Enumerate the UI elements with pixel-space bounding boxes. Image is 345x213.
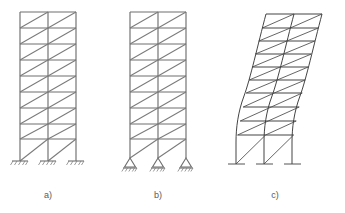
brace-bay1-story8 [259, 28, 291, 41]
brace-bay2-story4 [48, 92, 76, 108]
pinned-support-left [122, 158, 137, 172]
brace-bay1-story7 [20, 44, 48, 60]
column-right-deformed [292, 14, 322, 164]
brace-bay2-story9 [48, 12, 76, 28]
hatch [71, 161, 74, 165]
brace-bay2-story5 [158, 76, 186, 92]
brace-bay1-story1 [130, 139, 158, 158]
brace-bay1-story1 [20, 139, 48, 161]
hatch [11, 161, 14, 165]
brace-bay1-story6 [20, 60, 48, 76]
brace-bay1-story6 [252, 54, 283, 67]
brace-bay1-story3 [243, 93, 274, 107]
brace-bay1-story6 [130, 60, 158, 76]
brace-bay2-story2 [158, 124, 186, 139]
panel-a-frame: a) [11, 12, 85, 200]
brace-bay1-story9 [130, 12, 158, 28]
brace-bay1-story7 [130, 44, 158, 60]
panel-b-frame: b) [122, 12, 193, 200]
hatch [54, 161, 57, 165]
column-middle-deformed [264, 14, 294, 164]
support-triangle [125, 158, 136, 167]
brace-bay2-story3 [48, 108, 76, 124]
brace-bay2-story7 [283, 41, 314, 54]
hatch [39, 161, 42, 165]
brace-bay1-story8 [130, 28, 158, 44]
brace-bay2-story1 [158, 139, 186, 158]
brace-bay1-story3 [130, 108, 158, 124]
brace-bay2-story7 [158, 44, 186, 60]
column-left-deformed [236, 14, 266, 164]
brace-bay2-story5 [48, 76, 76, 92]
hatch [15, 161, 18, 165]
panel-b-columns [130, 12, 186, 158]
structural-frames-figure: a) [0, 0, 345, 213]
panel-c-columns [236, 14, 322, 164]
brace-bay2-story3 [271, 93, 302, 107]
support-triangle [153, 158, 164, 167]
pinned-support-right [178, 158, 193, 172]
brace-bay1-story4 [20, 92, 48, 108]
hatch [150, 168, 152, 172]
panel-c-braces [236, 14, 322, 164]
brace-bay2-story5 [277, 67, 308, 80]
brace-bay1-story3 [20, 108, 48, 124]
panel-c-caption: c) [271, 190, 279, 200]
brace-bay2-story2 [48, 124, 76, 139]
brace-bay1-story5 [20, 76, 48, 92]
brace-bay1-story9 [262, 14, 294, 28]
hatch [51, 161, 54, 165]
brace-bay2-story6 [158, 60, 186, 76]
hatch [47, 161, 50, 165]
panel-b-supports [122, 158, 193, 172]
brace-bay1-story4 [246, 80, 277, 93]
hatch [79, 161, 82, 165]
brace-bay1-story2 [20, 124, 48, 139]
pinned-support-middle [150, 158, 165, 172]
brace-bay1-story5 [249, 67, 280, 80]
fixed-support-left [11, 161, 29, 165]
brace-bay2-story9 [290, 14, 322, 28]
hatch [67, 161, 70, 165]
brace-bay2-story8 [158, 28, 186, 44]
brace-bay2-story1 [48, 139, 76, 161]
panel-c-frame: c) [228, 14, 322, 200]
brace-bay2-story6 [48, 60, 76, 76]
brace-bay1-story4 [130, 92, 158, 108]
brace-bay2-story3 [158, 108, 186, 124]
hatch [26, 161, 29, 165]
panel-a-caption: a) [44, 190, 52, 200]
brace-bay2-story8 [48, 28, 76, 44]
support-triangle [181, 158, 192, 167]
brace-bay2-story4 [274, 80, 305, 93]
brace-bay1-story7 [255, 41, 286, 54]
hatch [75, 161, 78, 165]
brace-bay2-story4 [158, 92, 186, 108]
hatch [23, 161, 26, 165]
brace-bay2-story9 [158, 12, 186, 28]
hatch [178, 168, 180, 172]
brace-bay2-story2 [266, 121, 297, 135]
brace-bay1-story1 [236, 135, 266, 164]
brace-bay1-story9 [20, 12, 48, 28]
fixed-support-right [67, 161, 85, 165]
hatch [43, 161, 46, 165]
hatch [122, 168, 124, 172]
fixed-support-middle [39, 161, 57, 165]
brace-bay2-story8 [287, 28, 319, 41]
hatch [19, 161, 22, 165]
panel-a-supports [11, 161, 85, 165]
brace-bay1-story5 [130, 76, 158, 92]
brace-bay1-story8 [20, 28, 48, 44]
brace-bay2-story1 [264, 135, 294, 164]
hatch [82, 161, 85, 165]
brace-bay1-story2 [238, 121, 269, 135]
brace-bay2-story7 [48, 44, 76, 60]
brace-bay2-story6 [280, 54, 311, 67]
brace-bay1-story2 [130, 124, 158, 139]
panel-b-caption: b) [154, 190, 162, 200]
